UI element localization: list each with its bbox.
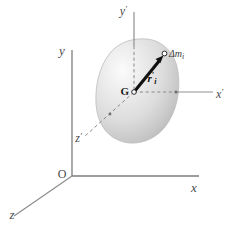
axis-y-label: y	[57, 43, 65, 58]
axis-z-prime-label: z′	[74, 131, 83, 145]
axis-y-prime-label: y′	[119, 4, 128, 18]
figure-canvas: y′ x′ z′ y x z O G Δmi	[0, 0, 239, 227]
mass-element-marker	[162, 51, 167, 56]
axis-z-line	[14, 176, 72, 216]
axis-x-prime-node	[175, 91, 178, 94]
mechanics-figure: y′ x′ z′ y x z O G Δmi	[0, 0, 239, 227]
axis-z-label: z	[8, 207, 14, 222]
axis-z-prime-node	[109, 113, 112, 116]
axis-x-prime-label: x′	[215, 87, 224, 101]
mass-center-label: G	[120, 85, 129, 97]
mass-center-marker	[132, 90, 137, 95]
origin-label: O	[58, 167, 67, 181]
axis-x-label: x	[190, 180, 197, 195]
